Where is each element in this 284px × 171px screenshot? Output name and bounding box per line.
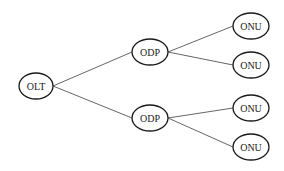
node-label: ODP — [140, 47, 160, 58]
edge-odp2-onu4 — [168, 118, 233, 147]
node-label: ODP — [140, 113, 160, 124]
node-label: OLT — [27, 81, 46, 92]
node-onu3: ONU — [233, 95, 269, 121]
nodes: OLTODPODPONUONUONUONU — [19, 13, 269, 160]
node-label: ONU — [240, 21, 262, 32]
node-onu2: ONU — [233, 52, 269, 78]
node-label: ONU — [240, 60, 262, 71]
edge-odp2-onu3 — [168, 108, 233, 118]
node-odp1: ODP — [132, 39, 168, 65]
node-onu1: ONU — [233, 13, 269, 39]
edge-odp1-onu1 — [168, 26, 233, 52]
node-olt: OLT — [19, 73, 53, 99]
edge-odp1-onu2 — [168, 52, 233, 65]
pon-tree-diagram: OLTODPODPONUONUONUONU — [0, 0, 284, 171]
edge-olt-odp2 — [53, 86, 132, 118]
node-label: ONU — [240, 142, 262, 153]
edge-olt-odp1 — [53, 52, 132, 86]
node-label: ONU — [240, 103, 262, 114]
node-onu4: ONU — [233, 134, 269, 160]
node-odp2: ODP — [132, 105, 168, 131]
